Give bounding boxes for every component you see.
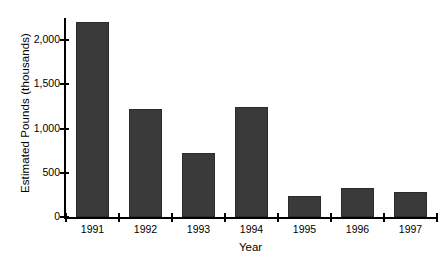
x-tick-label: 1996 — [331, 223, 384, 235]
bar-1996 — [341, 188, 375, 217]
y-tick-label: 500 — [14, 167, 60, 177]
bar-chart: Estimated Pounds (thousands) 0 500 1,000… — [0, 0, 441, 267]
y-axis-tick-labels: 0 500 1,000 1,500 2,000 — [14, 0, 60, 267]
y-tick-label: 0 — [14, 211, 60, 221]
x-tick-label: 1995 — [278, 223, 331, 235]
x-tick-label: 1997 — [384, 223, 437, 235]
bar-1994 — [235, 107, 269, 217]
bar-1993 — [182, 153, 216, 217]
bar-1997 — [394, 192, 428, 217]
y-tick-label: 1,000 — [14, 123, 60, 133]
bar-1992 — [129, 109, 163, 217]
x-tick-label: 1993 — [172, 223, 225, 235]
x-tick-label: 1991 — [66, 223, 119, 235]
plot-area — [66, 18, 437, 217]
x-tick-label: 1992 — [119, 223, 172, 235]
x-axis-title: Year — [64, 240, 437, 254]
bar-1995 — [288, 196, 322, 217]
y-tick-label: 1,500 — [14, 78, 60, 88]
x-tick-label: 1994 — [225, 223, 278, 235]
y-tick-label: 2,000 — [14, 34, 60, 44]
bar-1991 — [76, 22, 110, 217]
